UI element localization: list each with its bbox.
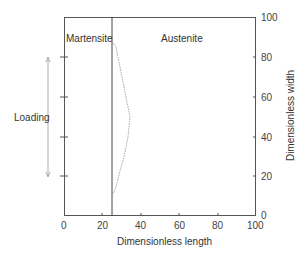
x-tick-100: 100 [247, 220, 264, 231]
x-tick-20: 20 [97, 220, 108, 231]
y-tick-0: 0 [261, 210, 267, 221]
x-tick-40: 40 [135, 220, 146, 231]
transformation-front [112, 41, 130, 194]
y-tick-40: 40 [261, 132, 272, 143]
martensite-label: Martensite [66, 33, 113, 44]
x-tick-0: 0 [61, 220, 67, 231]
x-tick-80: 80 [212, 220, 223, 231]
austenite-label: Austenite [161, 33, 203, 44]
right-ticks [253, 57, 256, 176]
y-tick-100: 100 [261, 12, 278, 23]
y-tick-60: 60 [261, 92, 272, 103]
y-tick-80: 80 [261, 52, 272, 63]
loading-label: Loading [14, 112, 50, 123]
x-tick-60: 60 [174, 220, 185, 231]
y-tick-20: 20 [261, 171, 272, 182]
y-axis-label: Dimensionless width [285, 68, 296, 164]
x-axis-label: Dimensionless length [117, 236, 212, 247]
left-ticks [60, 57, 68, 176]
bottom-ticks [102, 213, 218, 216]
